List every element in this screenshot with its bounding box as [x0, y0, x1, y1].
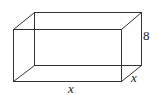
edge-top-left [14, 13, 35, 30]
edge-top-right [122, 13, 142, 30]
edge-bottom-left [14, 66, 35, 82]
rectangular-prism-diagram: 8 x x [0, 0, 158, 95]
length-label: x [68, 82, 74, 95]
depth-label: x [131, 71, 137, 84]
height-label: 8 [143, 29, 150, 42]
front-face [14, 30, 122, 82]
back-face [35, 13, 142, 66]
